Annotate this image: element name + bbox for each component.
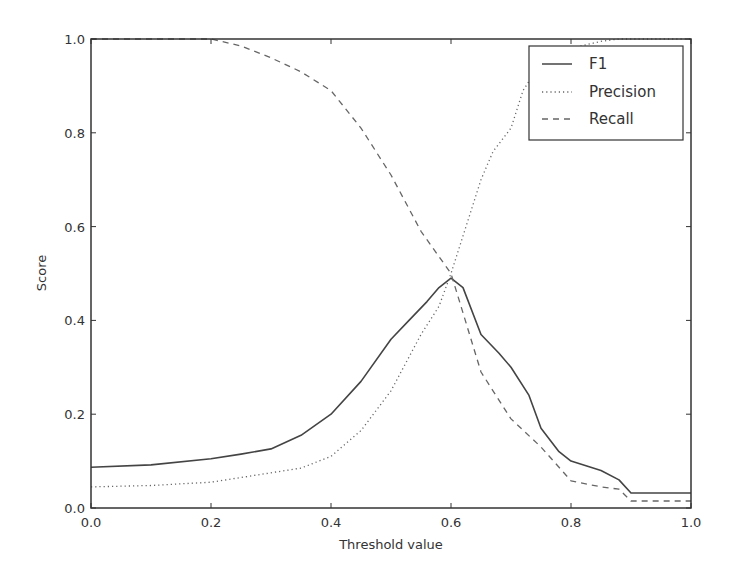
x-tick-label: 0.4 [321, 515, 342, 530]
legend-label-recall: Recall [589, 110, 634, 128]
x-tick-label: 0.2 [201, 515, 222, 530]
y-tick-label: 0.6 [64, 220, 85, 235]
x-tick-label: 0.0 [81, 515, 102, 530]
legend-label-precision: Precision [589, 83, 656, 101]
x-tick-label: 0.8 [561, 515, 582, 530]
legend-label-f1: F1 [589, 55, 607, 73]
y-tick-label: 0.4 [64, 313, 85, 328]
y-tick-label: 0.2 [64, 407, 85, 422]
series-f1-line [91, 278, 691, 493]
y-tick-label: 0.8 [64, 126, 85, 141]
x-tick-label: 0.6 [441, 515, 462, 530]
x-tick-label: 1.0 [681, 515, 702, 530]
legend: F1 Precision Recall [529, 46, 683, 140]
y-tick-label: 1.0 [64, 32, 85, 47]
threshold-score-chart: 0.00.20.40.60.81.00.00.20.40.60.81.0 Thr… [0, 0, 733, 575]
x-axis-title: Threshold value [338, 537, 443, 552]
y-axis-title: Score [34, 255, 49, 291]
y-tick-label: 0.0 [64, 501, 85, 516]
